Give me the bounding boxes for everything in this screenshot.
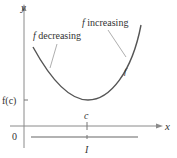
increasing-pointer: [108, 30, 126, 57]
y-axis-label: y: [20, 1, 26, 13]
diagram-canvas: y x 0 f(c) c I f f decreasing f increasi…: [0, 0, 177, 158]
x-axis-arrow-icon: [156, 124, 163, 129]
interval-label: I: [84, 144, 89, 155]
decreasing-pointer: [50, 44, 57, 68]
graph-svg: y x 0 f(c) c I f f decreasing f increasi…: [0, 0, 177, 158]
c-label: c: [84, 110, 89, 121]
increasing-annotation: f increasing: [82, 17, 128, 28]
origin-label: 0: [12, 131, 17, 142]
x-axis-label: x: [164, 120, 170, 132]
decreasing-text: decreasing: [36, 30, 81, 41]
increasing-text: increasing: [85, 17, 129, 28]
fc-label: f(c): [2, 95, 16, 107]
decreasing-annotation: f decreasing: [33, 30, 81, 41]
